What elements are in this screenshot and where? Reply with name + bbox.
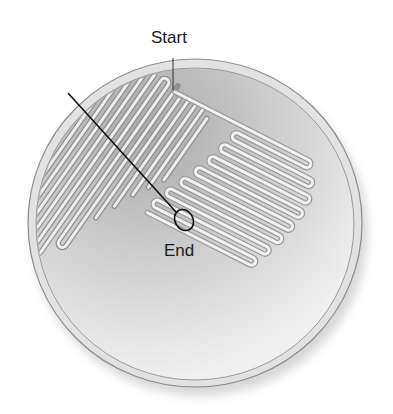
petri-dish-svg: [0, 0, 393, 414]
streak-plate-diagram: Start End: [0, 0, 393, 414]
end-label: End: [164, 241, 194, 261]
start-label: Start: [151, 28, 187, 48]
